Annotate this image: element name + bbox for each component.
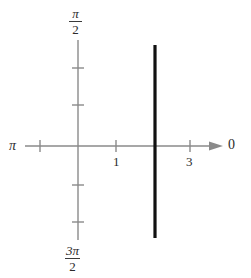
x-tick-label-1: 1 (113, 155, 120, 168)
x-axis-arrowhead (209, 141, 223, 150)
x-tick-label-3: 3 (186, 155, 193, 168)
y-axis-top-label: π 2 (69, 7, 82, 37)
x-axis-left-label: π (9, 139, 16, 153)
math-figure: π 0 1 3 π 2 3π 2 (0, 0, 251, 278)
y-axis-top-label-denominator: 2 (71, 22, 80, 36)
x-axis-right-label: 0 (228, 138, 235, 152)
y-axis-bottom-label: 3π 2 (65, 244, 80, 274)
y-axis-top-label-numerator: π (71, 7, 80, 21)
plot-canvas (0, 0, 251, 278)
y-axis-bottom-label-numerator: 3π (65, 244, 80, 258)
y-axis-bottom-label-denominator: 2 (68, 259, 77, 273)
